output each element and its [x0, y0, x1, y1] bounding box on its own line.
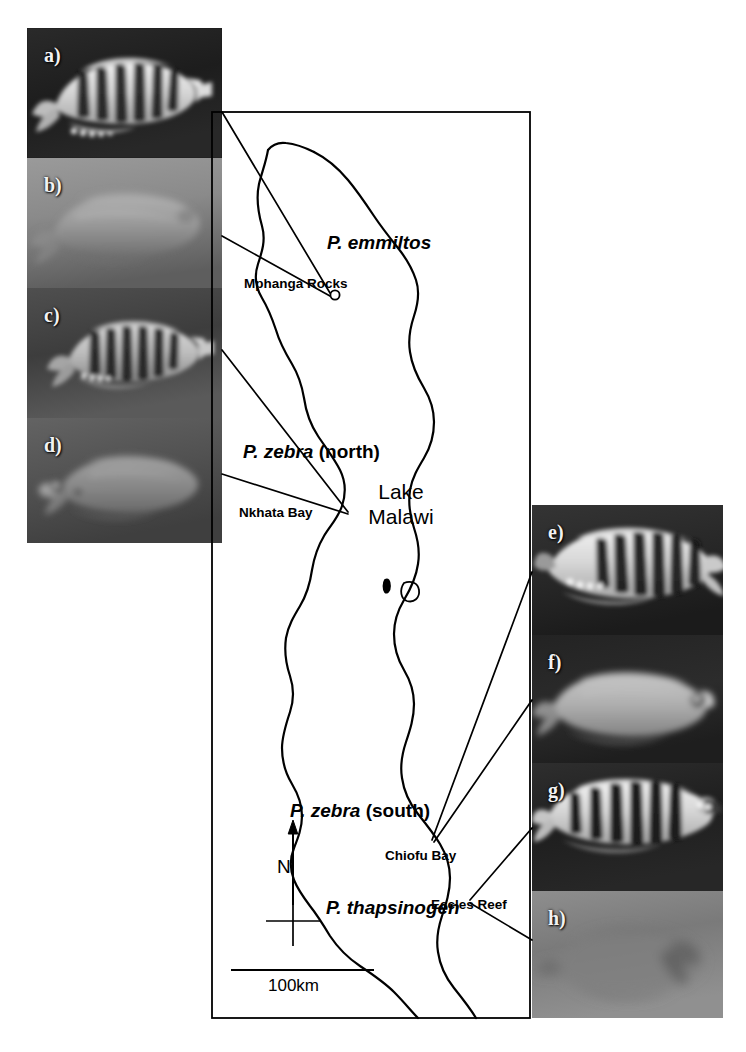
connector-f-to-chiofu [434, 700, 532, 842]
species-name-zebra-south: P. zebra [290, 800, 360, 821]
connector-lines-right [432, 572, 532, 940]
lake-name-label: Lake Malawi [355, 480, 447, 530]
lake-islands [384, 579, 420, 601]
compass-rose [266, 820, 320, 946]
photo-panel-b [27, 158, 222, 288]
photo-panel-e [532, 505, 726, 635]
photo-panel-d [27, 418, 222, 543]
photo-panel-a [27, 28, 222, 158]
photo-panel-g [532, 763, 723, 891]
connector-c-to-nkhata [222, 350, 348, 512]
species-qualifier-zebra-south: (south) [360, 800, 430, 821]
island-large [401, 582, 419, 602]
species-qualifier-zebra-north: (north) [313, 441, 379, 462]
lake-name-line1: Lake [355, 480, 447, 505]
figure-root: a) b) c) d) e) f) g) h) P. emmiltos P. z… [0, 0, 746, 1052]
photo-panel-c [27, 288, 222, 418]
site-label-eccles-reef: Eccles Reef [431, 897, 507, 912]
site-label-chiofu-bay: Chiofu Bay [385, 848, 456, 863]
mphanga-rocks-marker [330, 290, 339, 299]
photo-panel-h [532, 891, 723, 1018]
island-small [384, 579, 391, 592]
connector-g-to-eccles [470, 828, 532, 900]
species-label-zebra-north: P. zebra (north) [243, 441, 380, 463]
photo-panel-f [532, 635, 723, 763]
species-label-zebra-south: P. zebra (south) [290, 800, 430, 822]
site-label-nkhata-bay: Nkhata Bay [239, 505, 313, 520]
lake-name-line2: Malawi [355, 505, 447, 530]
species-name-zebra-north: P. zebra [243, 441, 313, 462]
compass-north-label: N [277, 856, 291, 878]
connector-e-to-chiofu [432, 572, 532, 840]
scale-bar-label: 100km [268, 976, 319, 996]
compass-arrowhead [288, 820, 298, 834]
species-name-emmiltos: P. emmiltos [327, 232, 431, 253]
site-label-mphanga-rocks: Mphanga Rocks [244, 276, 348, 291]
species-label-emmiltos: P. emmiltos [327, 232, 431, 254]
